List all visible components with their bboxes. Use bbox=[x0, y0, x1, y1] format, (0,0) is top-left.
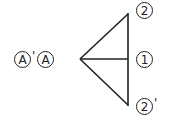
label-2-prime-bottom: 2 bbox=[136, 98, 153, 115]
upper-branch-line bbox=[80, 14, 128, 59]
label-a-prime-text: A bbox=[18, 54, 26, 66]
label-1-middle-text: 1 bbox=[141, 54, 149, 66]
label-2-top: 2 bbox=[136, 2, 153, 19]
label-1-middle: 1 bbox=[136, 51, 153, 68]
label-a-text: A bbox=[41, 54, 49, 66]
label-2-prime-bottom-text: 2 bbox=[141, 101, 149, 113]
label-a-prime-mark: ' bbox=[32, 50, 35, 62]
label-2-prime-mark: ' bbox=[154, 97, 157, 109]
lower-branch-line bbox=[80, 59, 128, 105]
label-a: A bbox=[37, 51, 54, 68]
label-a-prime: A bbox=[14, 51, 31, 68]
label-2-top-text: 2 bbox=[141, 5, 149, 17]
